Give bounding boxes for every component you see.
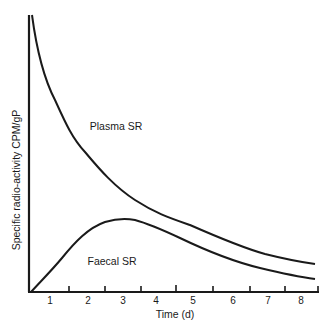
x-tick-label: 1 — [47, 295, 53, 306]
x-tick-label: 2 — [85, 295, 91, 306]
x-tick-label: 6 — [230, 295, 236, 306]
y-axis-title: Specific radio-activity CPM/gP — [10, 110, 22, 251]
x-ticks — [69, 285, 318, 292]
x-tick-label: 8 — [298, 295, 304, 306]
plasma-sr-label: Plasma SR — [90, 120, 143, 132]
x-tick-label: 5 — [190, 295, 196, 306]
x-tick-label: 4 — [153, 295, 159, 306]
chart-canvas: 1 2 3 4 5 6 7 8 Time (d) Specific radio-… — [0, 0, 331, 331]
x-tick-label: 3 — [120, 295, 126, 306]
faecal-sr-label: Faecal SR — [87, 255, 136, 267]
x-tick-labels: 1 2 3 4 5 6 7 8 — [47, 295, 304, 306]
x-tick-label: 7 — [265, 295, 271, 306]
plasma-sr-curve — [32, 15, 315, 264]
x-axis-title: Time (d) — [156, 308, 195, 320]
